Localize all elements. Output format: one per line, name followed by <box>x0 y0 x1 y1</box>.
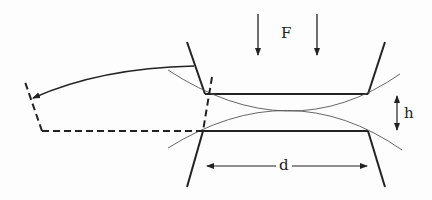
force-label: F <box>281 26 291 41</box>
upper-plate <box>187 42 385 94</box>
distance-label: d <box>279 158 289 173</box>
height-label: h <box>404 106 414 121</box>
meniscus-curves <box>168 70 402 150</box>
liquid-bridge-diagram <box>0 0 432 200</box>
displaced-plate-dashed <box>24 77 212 131</box>
